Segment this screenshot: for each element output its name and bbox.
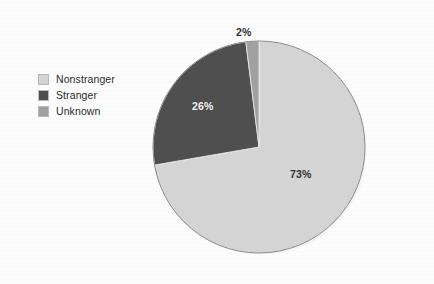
plot-area: Nonstranger Stranger Unknown — [0, 0, 434, 284]
pie-svg — [152, 40, 366, 254]
slice-label-stranger: 26% — [192, 100, 214, 112]
legend: Nonstranger Stranger Unknown — [38, 73, 115, 118]
legend-item-nonstranger[interactable]: Nonstranger — [38, 73, 115, 86]
legend-item-unknown[interactable]: Unknown — [38, 105, 115, 118]
legend-label-unknown: Unknown — [56, 105, 100, 118]
legend-label-stranger: Stranger — [56, 89, 97, 102]
pie-graphic — [152, 40, 366, 254]
slice-label-nonstranger: 73% — [290, 168, 312, 180]
legend-swatch-nonstranger — [38, 74, 49, 85]
pie-slices — [153, 41, 365, 253]
slice-label-unknown: 2% — [236, 26, 252, 38]
legend-swatch-stranger — [38, 90, 49, 101]
legend-swatch-unknown — [38, 106, 49, 117]
legend-item-stranger[interactable]: Stranger — [38, 89, 115, 102]
pie-chart-figure: Nonstranger Stranger Unknown — [0, 0, 434, 284]
legend-label-nonstranger: Nonstranger — [56, 73, 115, 86]
